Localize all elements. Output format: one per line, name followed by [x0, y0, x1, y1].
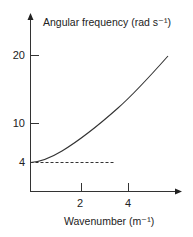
y-tick-label-10: 10 [13, 117, 25, 129]
y-axis-arrow-icon [28, 13, 34, 20]
y-axis-label: Angular frequency (rad s⁻¹) [43, 16, 171, 28]
dispersion-chart: 20 10 4 2 4 Angular frequency (rad s⁻¹) … [0, 0, 193, 237]
x-axis-arrow-icon [175, 189, 182, 195]
x-tick-label-2: 2 [77, 197, 83, 209]
y-tick-label-20: 20 [13, 49, 25, 61]
y-tick-label-4: 4 [19, 156, 25, 168]
x-tick-label-4: 4 [125, 197, 131, 209]
dispersion-curve [31, 56, 169, 163]
x-axis-label: Wavenumber (m⁻¹) [64, 215, 154, 227]
